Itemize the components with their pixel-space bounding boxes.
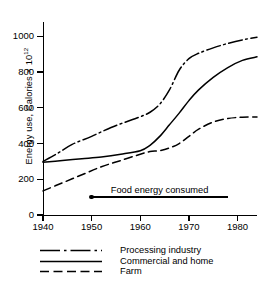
x-tick-label-1950: 1950 (75, 222, 109, 232)
legend-label-commercial-and-home: Commercial and home (120, 256, 214, 267)
x-tick-label-1940: 1940 (26, 222, 60, 232)
x-tick-label-1970: 1970 (172, 222, 206, 232)
legend-row-processing-industry: Processing industry (40, 245, 260, 256)
legend-label-farm: Farm (120, 266, 142, 277)
x-tick-label-1980: 1980 (221, 222, 255, 232)
legend: Processing industry Commercial and home … (40, 245, 260, 277)
figure-energy-use-chart: 02004006008001000 19401950196019701980 E… (0, 0, 267, 285)
y-axis-title-exponent: 12 (22, 48, 29, 55)
legend-sample-dashed-icon (40, 270, 102, 273)
y-axis-title: Energy use, Calories × 1012 (22, 31, 34, 181)
series-line-farm (43, 117, 257, 191)
series-line-commercial-and-home (43, 57, 257, 162)
legend-row-commercial-and-home: Commercial and home (40, 256, 260, 267)
legend-row-farm: Farm (40, 266, 260, 277)
annotation-label: Food energy consumed (111, 186, 209, 195)
legend-label-processing-industry: Processing industry (120, 245, 201, 256)
caption-sliver (2, 277, 152, 284)
annotation-span-bar (92, 196, 228, 198)
y-tick-label-0: 0 (0, 210, 34, 220)
legend-sample-dash-dot-icon (40, 249, 102, 252)
y-axis-title-text: Energy use, Calories × 10 (24, 55, 34, 165)
legend-sample-solid-icon (40, 260, 102, 263)
x-tick-label-1960: 1960 (123, 222, 157, 232)
series-line-processing-industry (43, 37, 257, 161)
